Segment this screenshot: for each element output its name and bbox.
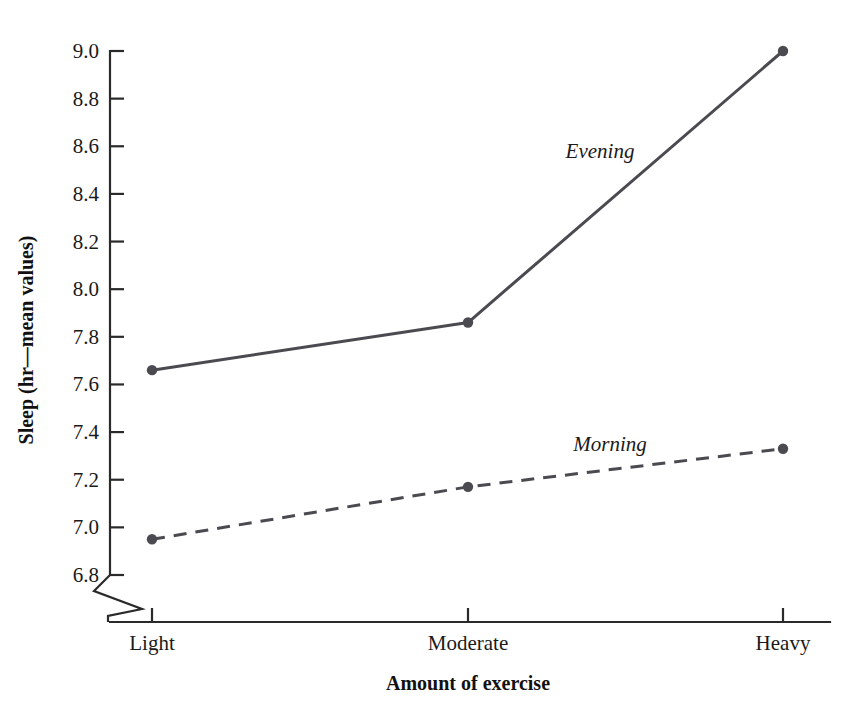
y-tick-label: 7.4: [73, 420, 100, 444]
y-axis-title: Sleep (hr—mean values): [15, 236, 38, 445]
x-tick-label-light: Light: [129, 631, 175, 655]
y-tick-label: 9.0: [73, 39, 99, 63]
y-tick-label: 7.8: [73, 325, 99, 349]
y-tick-label: 8.8: [73, 87, 99, 111]
y-tick-label: 8.0: [73, 277, 99, 301]
data-point-marker: [778, 46, 788, 56]
chart-background: [0, 0, 856, 712]
data-point-marker: [463, 482, 473, 492]
data-point-marker: [778, 444, 788, 454]
y-tick-label: 7.6: [73, 372, 99, 396]
y-tick-label: 7.2: [73, 468, 99, 492]
data-point-marker: [147, 534, 157, 544]
line-chart: 6.87.07.27.47.67.88.08.28.48.68.89.0 Lig…: [0, 0, 856, 712]
y-tick-label: 8.2: [73, 230, 99, 254]
chart-page: 6.87.07.27.47.67.88.08.28.48.68.89.0 Lig…: [0, 0, 856, 712]
data-point-marker: [147, 365, 157, 375]
data-point-marker: [463, 317, 473, 327]
y-tick-label: 8.6: [73, 134, 99, 158]
y-tick-label: 7.0: [73, 515, 99, 539]
series-label-evening: Evening: [565, 139, 635, 163]
x-tick-label-heavy: Heavy: [756, 631, 811, 655]
y-tick-label: 8.4: [73, 182, 100, 206]
series-label-morning: Morning: [572, 432, 647, 456]
x-axis-title: Amount of exercise: [386, 672, 550, 694]
y-tick-label: 6.8: [73, 563, 99, 587]
x-tick-label-moderate: Moderate: [428, 631, 508, 655]
